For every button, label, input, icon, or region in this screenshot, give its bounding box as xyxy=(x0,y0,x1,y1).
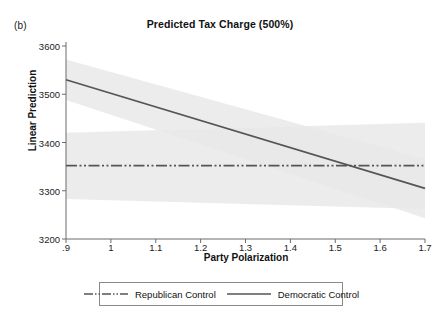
legend-label-democratic: Democratic Control xyxy=(278,289,359,300)
legend-label-republican: Republican Control xyxy=(135,289,216,300)
chart-figure: (b) Predicted Tax Charge (500%) Linear P… xyxy=(0,0,440,316)
plot-area xyxy=(0,0,440,316)
solid-line-icon xyxy=(226,289,272,299)
chart-legend: Republican Control Democratic Control xyxy=(99,282,343,306)
legend-item-democratic[interactable]: Democratic Control xyxy=(226,289,359,300)
legend-item-republican[interactable]: Republican Control xyxy=(83,289,216,300)
dash-dot-line-icon xyxy=(83,289,129,299)
